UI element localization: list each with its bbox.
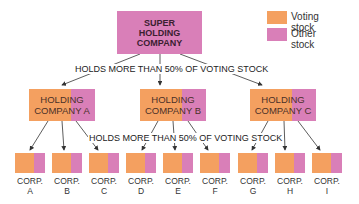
super-line-1: SUPER [137,18,182,28]
holding-company-b: HOLDING COMPANY B [140,89,206,121]
holding-c-line2: COMPANY C [255,105,312,116]
corp-g-label: CORP.G [233,176,273,196]
corp-e-label: CORP.E [158,176,198,196]
corp-f-box [200,153,230,173]
corp-c-box [89,153,119,173]
super-line-2: HOLDING [137,28,182,38]
note-middle: HOLDS MORE THAN 50% OF VOTING STOCK [88,133,283,143]
corp-c-label: CORP.C [84,176,124,196]
legend-swatch-voting [267,11,287,24]
super-line-3: COMPANY [137,38,182,48]
corp-f-label: CORP.F [195,176,235,196]
corp-a-box [15,153,45,173]
holding-company-c: HOLDING COMPANY C [250,89,316,121]
corp-i-label: CORP.I [307,176,347,196]
legend-label-other: Other stock [291,28,316,50]
holding-b-line2: COMPANY B [145,105,201,116]
super-holding-company-box: SUPER HOLDING COMPANY [117,11,202,54]
holding-a-line2: COMPANY A [34,105,90,116]
corp-g-box [238,153,268,173]
corp-b-label: CORP.B [47,176,87,196]
holding-company-a: HOLDING COMPANY A [29,89,95,121]
corp-d-box [126,153,156,173]
holding-a-line1: HOLDING [34,94,90,105]
corp-h-label: CORP.H [270,176,310,196]
note-top: HOLDS MORE THAN 50% OF VOTING STOCK [74,64,269,74]
corp-d-label: CORP.D [121,176,161,196]
corp-e-box [163,153,193,173]
holding-c-line1: HOLDING [255,94,312,105]
corp-h-box [275,153,305,173]
legend-swatch-other [267,28,287,41]
corp-i-box [312,153,342,173]
corp-a-label: CORP.A [10,176,50,196]
corp-b-box [52,153,82,173]
holding-b-line1: HOLDING [145,94,201,105]
